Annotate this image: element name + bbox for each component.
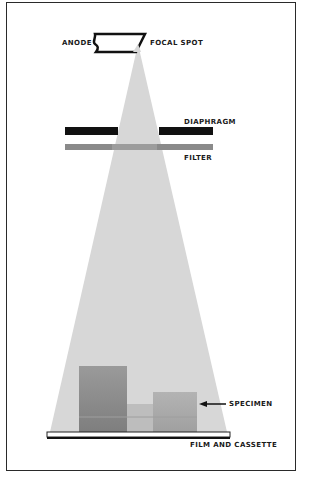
film-and-cassette [47, 432, 230, 437]
diaphragm-left-plate [65, 127, 118, 135]
filter-label: FILTER [184, 154, 212, 162]
anode-label: ANODE [62, 39, 92, 47]
focal-spot-label: FOCAL SPOT [150, 39, 203, 47]
specimen-label: SPECIMEN [229, 400, 273, 408]
film-and-cassette-label: FILM AND CASSETTE [190, 441, 277, 449]
specimen-right-block [153, 392, 197, 432]
filter-beam-overlap [112, 144, 157, 150]
diaphragm-right-plate [159, 127, 213, 135]
specimen-middle-step [127, 404, 153, 432]
specimen-tall-block [79, 366, 127, 432]
xray-beam [50, 44, 227, 432]
diaphragm-label: DIAPHRAGM [184, 118, 236, 126]
